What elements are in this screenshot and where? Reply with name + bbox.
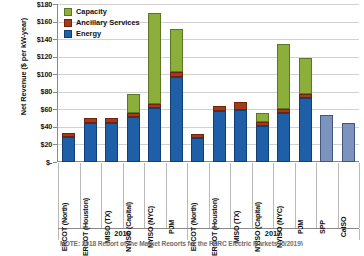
y-axis-tick-label: $- bbox=[14, 158, 52, 167]
legend-label-ancillary-services: Ancillary Services bbox=[76, 18, 140, 27]
bar bbox=[84, 118, 97, 162]
x-axis-category-label: ERCOT (North) bbox=[58, 163, 80, 229]
bar-segment-ancillary-services bbox=[277, 109, 290, 113]
x-axis-category-label: ERCOT (Houston) bbox=[209, 163, 231, 229]
bar-segment-energy bbox=[148, 108, 161, 162]
bar-segment-energy bbox=[84, 123, 97, 163]
legend-label-capacity: Capacity bbox=[76, 7, 107, 16]
bar bbox=[277, 44, 290, 162]
y-axis-tick-label: $40 bbox=[14, 122, 52, 131]
category-separator bbox=[295, 163, 296, 228]
bar bbox=[191, 134, 204, 162]
bar bbox=[320, 115, 333, 162]
x-axis-category-labels: ERCOT (North)ERCOT (Houston)MISO (TX)NYI… bbox=[58, 163, 359, 229]
category-separator bbox=[166, 163, 167, 228]
bar bbox=[256, 113, 269, 162]
bar-segment-ancillary-services bbox=[299, 94, 312, 98]
bar-segment-capacity bbox=[127, 94, 140, 112]
bar-segment-energy bbox=[105, 123, 118, 162]
y-axis-tick-label: $60 bbox=[14, 105, 52, 114]
bar-segment-energy bbox=[62, 137, 75, 162]
category-label-text: ERCOT (Houston) bbox=[81, 198, 90, 256]
category-separator bbox=[58, 163, 59, 228]
x-axis-category-label: MISO (TX) bbox=[230, 163, 252, 229]
category-separator bbox=[187, 163, 188, 228]
x-axis-group-label: 2016 bbox=[58, 229, 187, 240]
y-axis-tick-label: $120 bbox=[14, 52, 52, 61]
x-axis-year-labels: 20162017 bbox=[58, 229, 359, 240]
bar-segment-energy bbox=[234, 110, 247, 162]
bar bbox=[342, 123, 355, 162]
bar-segment-energy bbox=[127, 117, 140, 162]
bar bbox=[234, 102, 247, 162]
x-axis-category-label: PJM bbox=[295, 163, 317, 229]
x-axis-category-label: NYISO (NYC) bbox=[144, 163, 166, 229]
bar bbox=[62, 133, 75, 162]
bar-segment-ancillary-services bbox=[213, 106, 226, 111]
bar-segment-ancillary-services bbox=[127, 113, 140, 117]
bar-segment-energy bbox=[299, 98, 312, 162]
bar-segment-ancillary-services bbox=[170, 72, 183, 76]
x-axis-category-label: PJM bbox=[166, 163, 188, 229]
x-axis-category-label: SPP bbox=[316, 163, 338, 229]
y-axis-tick-label: $180 bbox=[14, 0, 52, 9]
bar-segment-energy bbox=[191, 138, 204, 162]
x-axis-category-label: NYISO (Capital) bbox=[123, 163, 145, 229]
category-separator bbox=[209, 163, 210, 228]
x-axis-category-label: NYISO (Capital) bbox=[252, 163, 274, 229]
x-axis-category-label: ERCOT (Houston) bbox=[80, 163, 102, 229]
bar bbox=[148, 13, 161, 162]
bar-segment-ancillary-services bbox=[256, 122, 269, 126]
group-separator bbox=[58, 229, 59, 240]
bar bbox=[170, 29, 183, 162]
bar-segment-ancillary-services bbox=[191, 134, 204, 138]
category-separator bbox=[252, 163, 253, 228]
y-axis-tick-label: $140 bbox=[14, 35, 52, 44]
legend-item-energy: Energy bbox=[64, 28, 140, 39]
legend-label-energy: Energy bbox=[76, 29, 101, 38]
bar-segment-ancillary-services bbox=[148, 104, 161, 108]
y-axis-tick-mark bbox=[53, 162, 57, 163]
bar-segment-capacity bbox=[277, 44, 290, 109]
category-label-text: ERCOT (Houston) bbox=[210, 198, 219, 256]
bar-segment-energy bbox=[170, 77, 183, 162]
bar bbox=[127, 94, 140, 162]
group-separator bbox=[187, 229, 188, 240]
x-axis-category-label: CaISO bbox=[338, 163, 360, 229]
bar-segment-capacity bbox=[148, 13, 161, 104]
y-axis-tick-label: $80 bbox=[14, 87, 52, 96]
legend-swatch-capacity-icon bbox=[64, 8, 72, 16]
category-separator bbox=[123, 163, 124, 228]
category-separator bbox=[144, 163, 145, 228]
x-axis-category-label: ERCOT (North) bbox=[187, 163, 209, 229]
category-separator bbox=[273, 163, 274, 228]
y-axis-tick-label: $100 bbox=[14, 70, 52, 79]
category-separator bbox=[230, 163, 231, 228]
bar-segment-capacity bbox=[299, 58, 312, 93]
category-separator bbox=[338, 163, 339, 228]
bar-segment-energy bbox=[256, 126, 269, 162]
bar-segment-energy bbox=[213, 111, 226, 162]
bar-segment-ancillary-services bbox=[234, 102, 247, 110]
legend-swatch-energy-icon bbox=[64, 30, 72, 38]
category-separator bbox=[316, 163, 317, 228]
bar bbox=[105, 118, 118, 162]
bar-segment-capacity bbox=[170, 29, 183, 72]
legend-item-capacity: Capacity bbox=[64, 6, 140, 17]
legend-swatch-ancillary-services-icon bbox=[64, 19, 72, 27]
bar-segment-total bbox=[342, 123, 355, 162]
chart-legend: Capacity Ancillary Services Energy bbox=[64, 6, 140, 39]
bar bbox=[299, 58, 312, 162]
bar-segment-energy bbox=[277, 113, 290, 162]
x-axis-group-label: 2017 bbox=[187, 229, 359, 240]
bar-segment-capacity bbox=[256, 113, 269, 122]
group-separator bbox=[359, 229, 360, 240]
legend-item-ancillary-services: Ancillary Services bbox=[64, 17, 140, 28]
category-separator bbox=[101, 163, 102, 228]
source-note: NOTE: 2018 Report of the Market Reports … bbox=[60, 240, 360, 246]
bar-segment-ancillary-services bbox=[105, 118, 118, 123]
x-axis-category-label: NYISO (NYC) bbox=[273, 163, 295, 229]
y-axis-tick-label: $20 bbox=[14, 140, 52, 149]
bar bbox=[213, 106, 226, 162]
